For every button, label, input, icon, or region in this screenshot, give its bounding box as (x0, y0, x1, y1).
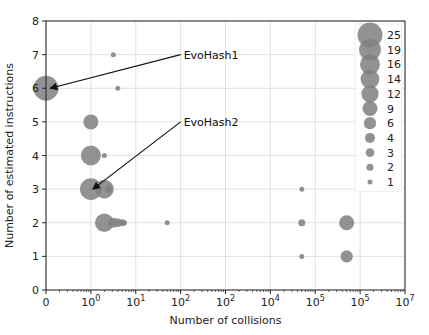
data-point (102, 153, 107, 158)
legend-label: 6 (387, 117, 394, 130)
x-tick-label: 107 (395, 294, 414, 309)
data-point (83, 114, 98, 129)
bubble-chart: EvoHash1EvoHash2 01001011021021041051051… (0, 0, 429, 335)
legend-label: 9 (387, 103, 394, 116)
data-point (341, 250, 353, 262)
x-tick-label: 104 (261, 294, 280, 309)
legend-label: 16 (387, 58, 401, 71)
x-tick-label: 100 (81, 294, 100, 309)
data-point (299, 187, 304, 192)
legend-label: 3 (387, 147, 394, 160)
data-point (81, 146, 101, 166)
annotation-label: EvoHash2 (184, 116, 239, 129)
y-tick-label: 1 (32, 250, 39, 263)
y-tick-label: 5 (32, 116, 39, 129)
data-point (165, 220, 170, 225)
legend-marker (363, 101, 378, 116)
x-tick-label: 101 (126, 294, 145, 309)
legend-marker (361, 85, 378, 102)
y-tick-label: 2 (32, 217, 39, 230)
y-tick-label: 7 (32, 49, 39, 62)
data-point (105, 186, 112, 193)
legend-label: 19 (387, 44, 401, 57)
data-point (298, 219, 305, 226)
y-tick-label: 4 (32, 150, 39, 163)
annotation-label: EvoHash1 (184, 49, 239, 62)
data-point (122, 220, 127, 225)
y-tick-label: 6 (32, 82, 39, 95)
legend-label: 1 (387, 176, 394, 189)
x-tick-label: 102 (171, 294, 190, 309)
y-tick-label: 3 (32, 183, 39, 196)
annotations: EvoHash1EvoHash2 (50, 49, 238, 190)
y-axis-label: Number of estimated instructions (3, 63, 16, 248)
x-tick-label: 102 (216, 294, 235, 309)
x-tick-label: 105 (351, 294, 370, 309)
y-tick-label: 0 (32, 284, 39, 297)
legend-marker (366, 148, 375, 157)
data-point (115, 86, 120, 91)
data-point (299, 254, 304, 259)
legend-label: 12 (387, 88, 401, 101)
legend-marker (366, 164, 373, 171)
data-point (339, 215, 354, 230)
y-tick-label: 8 (32, 15, 39, 28)
annotation-arrow (50, 55, 180, 89)
legend-marker (368, 180, 373, 185)
legend-marker (364, 117, 376, 129)
legend-label: 4 (387, 132, 394, 145)
x-axis-label: Number of collisions (170, 314, 282, 327)
legend-label: 25 (387, 29, 401, 42)
legend-label: 14 (387, 73, 401, 86)
x-tick-label: 0 (43, 296, 50, 309)
data-point (111, 52, 116, 57)
legend-marker (365, 133, 375, 143)
data-points (34, 52, 355, 262)
size-legend: 2519161412964321 (355, 23, 402, 192)
legend-label: 2 (387, 161, 394, 174)
x-tick-label: 105 (306, 294, 325, 309)
